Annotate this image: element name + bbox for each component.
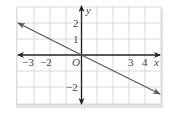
y-axis-label: y [85, 4, 91, 16]
x-axis-label: x [153, 56, 159, 68]
x-tick-neg3: −3 [22, 56, 34, 68]
y-tick-1: 1 [73, 33, 79, 45]
x-tick-4: 4 [142, 56, 148, 68]
x-tick-3: 3 [128, 56, 134, 68]
x-tick-neg2: −2 [40, 56, 52, 68]
y-tick-2: 2 [73, 17, 79, 29]
coordinate-graph: y x O −3 −2 3 4 2 1 −2 [0, 0, 169, 114]
origin-label: O [72, 56, 80, 68]
y-tick-neg2: −2 [66, 81, 78, 93]
